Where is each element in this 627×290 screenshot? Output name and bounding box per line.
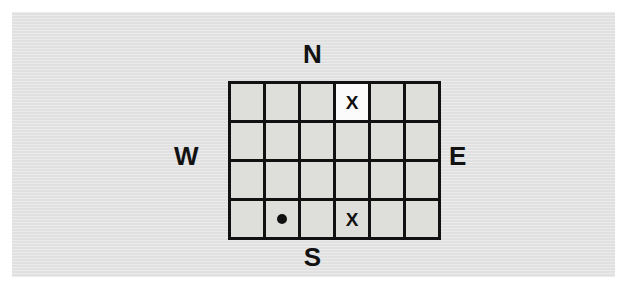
compass-label-west: W <box>174 143 199 169</box>
coordinate-grid: XX <box>228 81 441 240</box>
grid-cell-r2-c5[interactable] <box>371 123 403 159</box>
compass-label-east: E <box>449 143 466 169</box>
cell-mark-x: X <box>346 93 359 112</box>
compass-label-north: N <box>11 41 614 67</box>
grid-cell-r2-c6[interactable] <box>406 123 438 159</box>
grid-cell-r2-c4[interactable] <box>336 123 368 159</box>
grid-cell-r4-c3[interactable] <box>301 201 333 237</box>
grid-cell-r2-c2[interactable] <box>266 123 298 159</box>
grid-cell-r3-c2[interactable] <box>266 162 298 198</box>
grid-cell-r4-c1[interactable] <box>231 201 263 237</box>
grid-cell-r4-c4[interactable]: X <box>336 201 368 237</box>
compass-label-south: S <box>11 244 614 270</box>
grid-cell-r1-c5[interactable] <box>371 84 403 120</box>
grid-cell-r2-c1[interactable] <box>231 123 263 159</box>
grid-cell-r3-c4[interactable] <box>336 162 368 198</box>
grid-cell-r1-c4[interactable]: X <box>336 84 368 120</box>
grid-cell-r4-c6[interactable] <box>406 201 438 237</box>
grid-cell-r1-c3[interactable] <box>301 84 333 120</box>
grid-cell-r3-c6[interactable] <box>406 162 438 198</box>
diagram-panel: N W E S XX <box>12 12 615 277</box>
grid-cell-r1-c6[interactable] <box>406 84 438 120</box>
grid-cell-r2-c3[interactable] <box>301 123 333 159</box>
grid-cell-r4-c2[interactable] <box>266 201 298 237</box>
grid-cell-r1-c2[interactable] <box>266 84 298 120</box>
position-dot-icon <box>277 214 287 224</box>
grid-cell-r3-c3[interactable] <box>301 162 333 198</box>
grid-cell-r3-c1[interactable] <box>231 162 263 198</box>
cell-mark-x: X <box>346 210 359 229</box>
grid-cell-r1-c1[interactable] <box>231 84 263 120</box>
grid-cell-r4-c5[interactable] <box>371 201 403 237</box>
grid-cell-r3-c5[interactable] <box>371 162 403 198</box>
